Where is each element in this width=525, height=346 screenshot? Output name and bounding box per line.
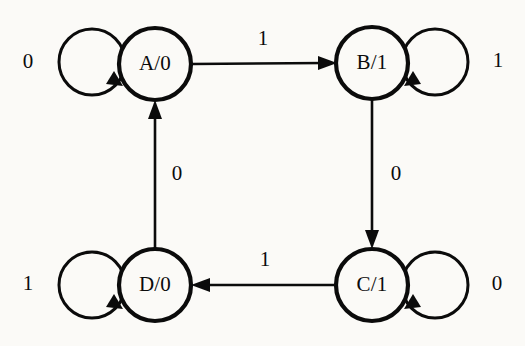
state-node-d[interactable]: D/0 <box>119 249 191 321</box>
state-node-a[interactable]: A/0 <box>119 28 191 100</box>
transition-a-to-b-line <box>192 63 325 64</box>
transition-d-to-a <box>148 100 162 249</box>
transition-b-to-c-label: 0 <box>391 161 402 185</box>
transition-b-to-c-arrowhead <box>365 230 379 249</box>
self-loop-b-arc <box>402 29 468 95</box>
self-loop-c-arc <box>402 252 468 318</box>
transition-c-to-d-label: 1 <box>260 247 271 271</box>
self-loop-a-label: 0 <box>23 49 34 73</box>
transition-d-to-a-label: 0 <box>172 161 183 185</box>
self-loop-c <box>402 252 468 318</box>
transition-d-to-a-arrowhead <box>148 100 162 119</box>
state-node-c[interactable]: C/1 <box>336 249 408 321</box>
self-loop-d-arc <box>59 252 125 318</box>
self-loop-b <box>402 29 468 95</box>
self-loop-d-label: 1 <box>23 271 34 295</box>
transition-a-to-b <box>192 56 337 70</box>
state-node-b[interactable]: B/1 <box>336 27 408 99</box>
state-diagram-canvas: A/0 B/1 C/1 D/0 0 1 0 1 1 0 1 0 <box>0 0 525 346</box>
state-diagram-svg: A/0 B/1 C/1 D/0 0 1 0 1 1 0 1 0 <box>0 0 525 346</box>
transition-b-to-c <box>365 99 379 249</box>
state-node-b-label: B/1 <box>357 50 388 74</box>
transition-c-to-d-arrowhead <box>191 278 210 292</box>
state-node-d-label: D/0 <box>139 272 171 296</box>
self-loop-b-label: 1 <box>493 48 504 72</box>
state-node-c-label: C/1 <box>357 272 388 296</box>
self-loop-a-arc <box>59 29 125 95</box>
transition-a-to-b-label: 1 <box>258 26 269 50</box>
transition-c-to-d <box>191 278 336 292</box>
state-node-a-label: A/0 <box>139 51 171 75</box>
self-loop-a <box>59 29 125 95</box>
self-loop-d <box>59 252 125 318</box>
self-loop-c-label: 0 <box>492 271 503 295</box>
